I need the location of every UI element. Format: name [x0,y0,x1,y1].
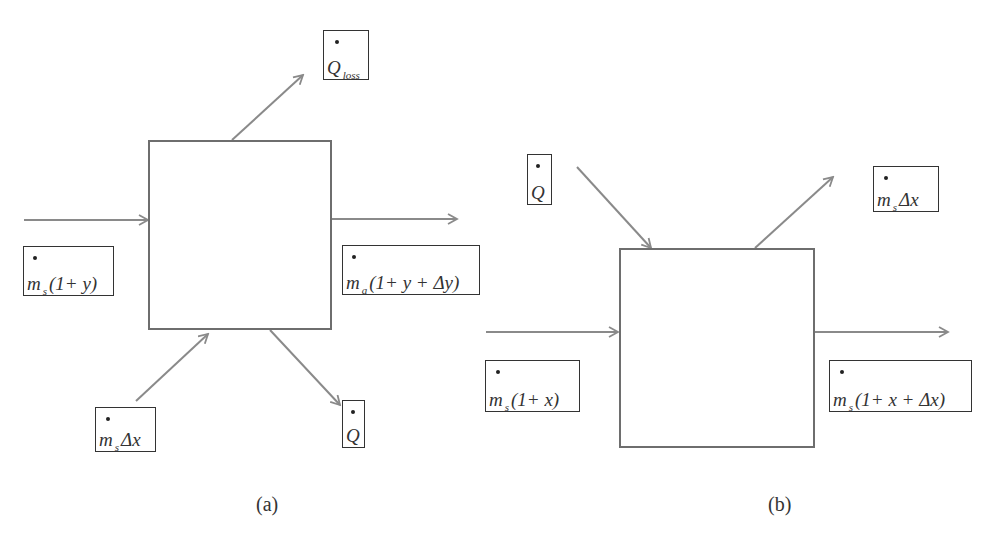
label-b-top-out: ms Δx [873,166,939,212]
label-a-bottom-in: ms Δx [95,407,156,452]
process-box-b [619,248,815,448]
label-a-inlet: ms(1+ y) [23,246,114,296]
arrow-a-bottom-out [270,330,340,405]
label-b-outlet: ms(1+ x + Δx) [829,360,972,412]
process-box-a [148,140,332,330]
label-a-outlet: ma(1+ y + Δy) [342,245,480,295]
arrow-a-qloss [232,75,303,140]
arrow-a-bottom-in [136,334,208,401]
caption-b: (b) [768,493,791,516]
symbol: Q [327,57,341,79]
label-b-heat-in: Q [527,154,552,205]
caption-a: (a) [256,493,278,516]
label-a-q-loss: Qloss [323,30,369,80]
label-a-bottom-out: Q [342,400,365,448]
arrow-b-top-out [755,177,833,248]
label-b-inlet: ms(1+ x) [485,360,580,412]
arrow-b-heat-in [577,167,651,248]
